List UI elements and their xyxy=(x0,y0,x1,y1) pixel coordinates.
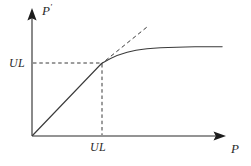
output-power-curve xyxy=(33,47,223,136)
y-axis-label: P' xyxy=(42,3,52,17)
x-axis-label: P xyxy=(231,142,239,155)
y-axis-prime-mark: ' xyxy=(50,2,52,12)
x-axis-tick-label-ul: UL xyxy=(90,141,106,153)
response-curve-chart xyxy=(0,0,251,166)
ideal-linear-tangent-line xyxy=(100,27,147,65)
figure-container: P' P UL UL xyxy=(0,0,251,166)
y-axis-tick-label-ul: UL xyxy=(9,57,25,69)
y-axis-label-text: P xyxy=(42,3,50,18)
